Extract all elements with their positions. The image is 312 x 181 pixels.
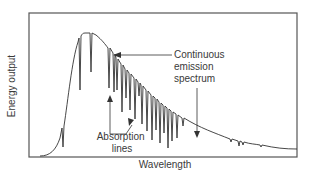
continuous-label: Continuous emission spectrum [174,49,227,84]
x-axis-label: Wavelength [139,159,191,170]
absorption-label-line-1: Absorption [97,131,145,142]
continuous-label-line-1: Continuous [174,49,225,60]
continuous-arrowhead [113,52,121,58]
y-axis-label: Energy output [6,55,17,117]
plot-frame [29,13,297,157]
absorption-label: Absorption lines [97,131,148,154]
absorption-arrowhead-1 [107,95,113,102]
continuous-label-line-3: spectrum [174,73,215,84]
absorption-leader-1 [110,100,126,134]
continuous-label-line-2: emission [174,61,213,72]
absorption-label-line-2: lines [112,143,133,154]
continuous-tail-arrowhead [194,131,200,138]
absorption-arrowhead-2 [128,118,134,126]
spectrum-diagram: Energy output Wavelength Continuous emis… [0,0,312,181]
emission-curve [40,33,297,156]
